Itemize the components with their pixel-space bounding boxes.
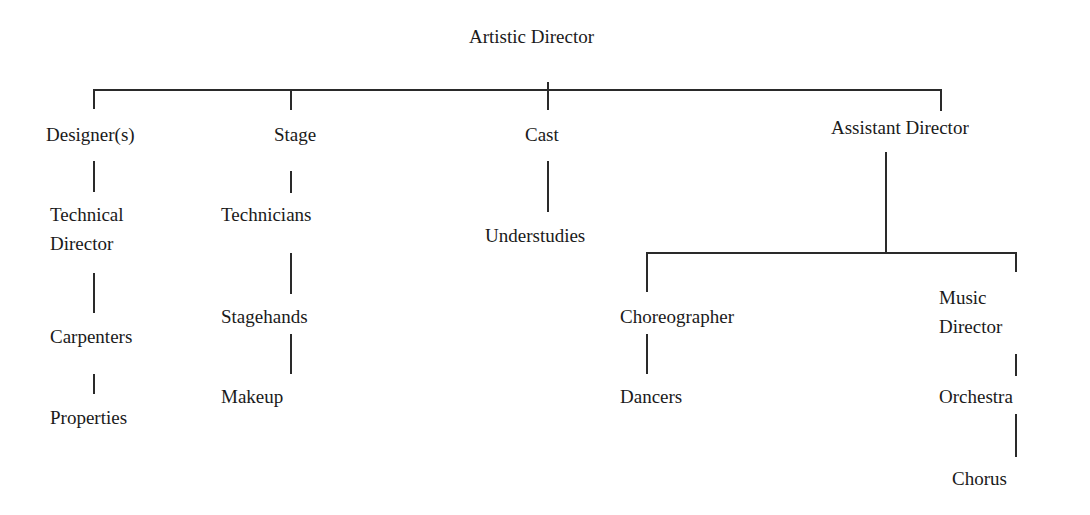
connector-drop-designers bbox=[93, 89, 95, 109]
node-technicians: Technicians bbox=[221, 203, 311, 227]
connector-root-down bbox=[547, 82, 549, 110]
node-cast: Cast bbox=[525, 123, 559, 147]
connector-drop-assistant bbox=[940, 89, 942, 111]
node-properties: Properties bbox=[50, 406, 127, 430]
node-music-director-line2: Director bbox=[939, 315, 1002, 339]
connector-technicians-stagehands bbox=[290, 253, 292, 294]
node-artistic-director: Artistic Director bbox=[469, 25, 594, 49]
connector-assistant-bar bbox=[646, 252, 1017, 254]
node-carpenters: Carpenters bbox=[50, 325, 132, 349]
node-choreographer: Choreographer bbox=[620, 305, 734, 329]
connector-stage-technicians bbox=[290, 171, 292, 193]
node-orchestra: Orchestra bbox=[939, 385, 1013, 409]
node-technical-director-line1: Technical bbox=[50, 203, 124, 227]
connector-music-orchestra bbox=[1015, 354, 1017, 376]
node-understudies: Understudies bbox=[485, 224, 585, 248]
node-designers: Designer(s) bbox=[46, 123, 135, 147]
node-music-director-line1: Music bbox=[939, 286, 987, 310]
node-dancers: Dancers bbox=[620, 385, 682, 409]
connector-top-bar bbox=[93, 89, 942, 91]
connector-stagehands-makeup bbox=[290, 334, 292, 374]
connector-drop-choreographer bbox=[646, 252, 648, 292]
connector-drop-music-director bbox=[1015, 252, 1017, 272]
connector-drop-stage bbox=[290, 89, 292, 110]
node-stage: Stage bbox=[274, 123, 316, 147]
node-makeup: Makeup bbox=[221, 385, 283, 409]
connector-carpenters-properties bbox=[93, 374, 95, 394]
node-stagehands: Stagehands bbox=[221, 305, 308, 329]
node-chorus: Chorus bbox=[952, 467, 1007, 491]
connector-assistant-down bbox=[885, 152, 887, 253]
connector-orchestra-chorus bbox=[1015, 414, 1017, 457]
connector-designers-td bbox=[93, 161, 95, 192]
connector-choreographer-dancers bbox=[646, 334, 648, 374]
node-assistant-director: Assistant Director bbox=[831, 116, 969, 140]
node-technical-director-line2: Director bbox=[50, 232, 113, 256]
connector-td-carpenters bbox=[93, 273, 95, 313]
connector-cast-understudies bbox=[547, 161, 549, 212]
